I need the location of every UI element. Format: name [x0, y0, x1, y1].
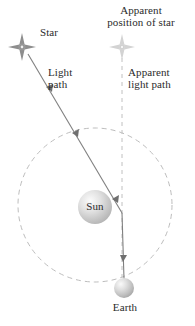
arrowhead-to-earth: [120, 255, 127, 262]
light-path-label: Light path: [48, 66, 96, 90]
apparent-position-label: Apparent position of star: [89, 4, 193, 28]
apparent-star-icon: [109, 34, 135, 60]
star-label: Star: [26, 26, 72, 38]
light-bending-diagram: [0, 0, 195, 326]
sun-label: Sun: [78, 200, 112, 212]
light-path-arrowheads: [46, 84, 127, 262]
earth-label: Earth: [104, 301, 146, 313]
apparent-light-path-label: Apparent light path: [128, 66, 192, 90]
earth-sphere: [114, 278, 134, 298]
diagram-canvas: Apparent position of star Star Light pat…: [0, 0, 195, 326]
